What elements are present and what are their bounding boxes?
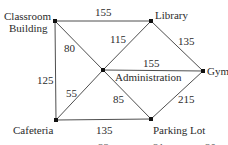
- weight-parking-gym: 215: [178, 93, 195, 105]
- label-administration: Administration: [115, 71, 182, 83]
- weight-classroom-library: 155: [95, 6, 112, 18]
- edge-cafeteria-administration: [56, 70, 103, 120]
- weight-cafeteria-parking: 135: [96, 124, 113, 136]
- campus-graph: Classroom Building Library Gym Administr…: [0, 0, 228, 145]
- label-library: Library: [155, 9, 188, 21]
- edge-classroom-administration: [55, 21, 103, 70]
- cutoff-text-3: 20: [205, 141, 217, 145]
- node-classroom-building: [53, 19, 57, 23]
- weight-library-gym: 135: [178, 35, 195, 47]
- weight-parking-administration: 85: [113, 93, 125, 105]
- label-classroom-line1: Classroom: [4, 10, 52, 22]
- weight-classroom-cafeteria: 125: [37, 74, 54, 86]
- node-cafeteria: [54, 118, 58, 122]
- cutoff-text-2: 21: [153, 141, 164, 145]
- node-gym: [201, 69, 205, 73]
- node-parking-lot: [149, 117, 153, 121]
- node-administration: [101, 68, 105, 72]
- edge-cafeteria-parking: [56, 119, 151, 120]
- label-cafeteria: Cafeteria: [13, 124, 53, 136]
- label-classroom-line2: Building: [9, 22, 48, 34]
- cutoff-text-1: 22: [98, 141, 109, 145]
- weight-administration-gym: 155: [143, 57, 160, 69]
- label-gym: Gym: [207, 65, 228, 77]
- weight-cafeteria-administration: 55: [66, 87, 78, 99]
- edge-classroom-cafeteria: [55, 21, 56, 120]
- label-parking-lot: Parking Lot: [153, 124, 205, 136]
- node-library: [149, 19, 153, 23]
- weight-library-administration: 115: [110, 33, 127, 45]
- weight-classroom-administration: 80: [64, 42, 76, 54]
